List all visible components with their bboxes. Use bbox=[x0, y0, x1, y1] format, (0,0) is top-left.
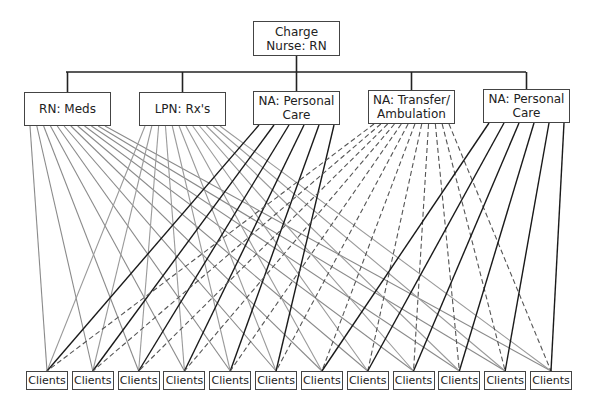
charge-nurse-box: Charge Nurse: RN bbox=[253, 21, 340, 56]
client-label: Clients bbox=[166, 374, 204, 388]
client-box-7: Clients bbox=[301, 371, 343, 390]
client-box-2: Clients bbox=[72, 371, 114, 390]
client-box-9: Clients bbox=[393, 371, 435, 390]
client-label: Clients bbox=[303, 374, 341, 388]
client-label: Clients bbox=[120, 374, 158, 388]
na-transfer-ambulation-box: NA: Transfer/ Ambulation bbox=[368, 90, 455, 124]
na-personal-care-box-2: NA: Personal Care bbox=[483, 89, 570, 123]
client-box-6: Clients bbox=[255, 371, 297, 390]
client-label: Clients bbox=[441, 374, 479, 388]
na-transfer-ambulation-label: NA: Transfer/ Ambulation bbox=[372, 93, 451, 121]
lpn-rx-label: LPN: Rx's bbox=[155, 102, 211, 116]
staffing-diagram: Charge Nurse: RN RN: Meds LPN: Rx's NA: … bbox=[0, 0, 592, 396]
lpn-rx-box: LPN: Rx's bbox=[139, 92, 226, 126]
client-label: Clients bbox=[395, 374, 433, 388]
client-box-5: Clients bbox=[209, 371, 251, 390]
client-label: Clients bbox=[74, 374, 112, 388]
client-box-3: Clients bbox=[118, 371, 160, 390]
client-label: Clients bbox=[257, 374, 295, 388]
client-label: Clients bbox=[349, 374, 387, 388]
client-label: Clients bbox=[211, 374, 249, 388]
client-label: Clients bbox=[28, 374, 66, 388]
na-personal-care-box-1: NA: Personal Care bbox=[253, 91, 340, 125]
na-personal-care-label-2: NA: Personal Care bbox=[487, 92, 566, 120]
na-personal-care-label-1: NA: Personal Care bbox=[257, 94, 336, 122]
client-box-4: Clients bbox=[163, 371, 205, 390]
client-box-11: Clients bbox=[484, 371, 526, 390]
client-label: Clients bbox=[532, 374, 570, 388]
rn-meds-box: RN: Meds bbox=[24, 92, 111, 126]
client-box-8: Clients bbox=[347, 371, 389, 390]
connector-lines bbox=[0, 0, 592, 396]
client-box-10: Clients bbox=[438, 371, 480, 390]
client-box-1: Clients bbox=[26, 371, 68, 390]
charge-nurse-label: Charge Nurse: RN bbox=[257, 25, 336, 53]
rn-meds-label: RN: Meds bbox=[39, 102, 96, 116]
client-label: Clients bbox=[486, 374, 524, 388]
client-box-12: Clients bbox=[530, 371, 572, 390]
